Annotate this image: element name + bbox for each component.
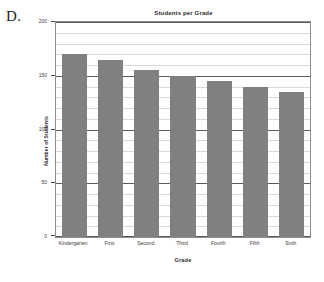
x-tick-label: Kindergarten <box>59 240 88 246</box>
bar <box>279 92 304 237</box>
y-tick-label: 50 <box>41 179 47 185</box>
y-tick-label: 200 <box>39 18 47 24</box>
bar <box>62 54 87 237</box>
y-axis-title: Number of Students <box>43 116 49 166</box>
chart-figure: D. Students per Grade 050100150200 Numbe… <box>0 0 324 282</box>
x-tick-label: Second <box>137 240 154 246</box>
bar <box>170 76 195 237</box>
bar <box>98 60 123 237</box>
y-tick-mark <box>51 235 55 236</box>
x-tick-label: Fourth <box>211 240 225 246</box>
x-axis-title: Grade <box>55 257 311 263</box>
x-tick-label: Fifth <box>250 240 260 246</box>
x-tick-label: First <box>105 240 115 246</box>
y-tick-mark <box>51 129 55 130</box>
x-tick-label: Third <box>176 240 187 246</box>
plot-area <box>55 21 311 238</box>
y-tick-label: 150 <box>39 72 47 78</box>
y-tick-mark <box>51 75 55 76</box>
y-tick-mark <box>51 182 55 183</box>
bar-series <box>56 22 310 237</box>
x-axis: KindergartenFirstSecondThirdFourthFifthS… <box>55 240 311 252</box>
chart-title: Students per Grade <box>55 10 312 16</box>
x-tick-label: Sixth <box>285 240 296 246</box>
bar <box>207 81 232 237</box>
y-tick-mark <box>51 21 55 22</box>
y-tick-label: 0 <box>44 233 47 239</box>
bar <box>134 70 159 237</box>
bar <box>243 87 268 238</box>
